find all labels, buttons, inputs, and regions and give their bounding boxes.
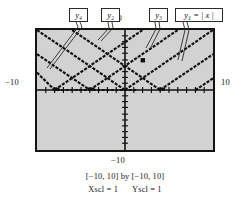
figure-caption: [−10, 10] by [−10, 10] Xscl = 1Yscl = 1 xyxy=(0,170,250,195)
vertex-marker-y4 xyxy=(53,88,60,91)
caption-scale-line: Xscl = 1Yscl = 1 xyxy=(0,183,250,195)
curve-y3-left xyxy=(72,30,160,90)
caption-window-range: [−10, 10] by [−10, 10] xyxy=(0,170,250,182)
caption-yscl: Yscl = 1 xyxy=(132,184,162,194)
vertex-marker-y3 xyxy=(158,88,165,91)
callout-y3-text: y₃ xyxy=(155,10,162,20)
curve-y4-right xyxy=(55,30,143,90)
callout-y1-expression: = | x | xyxy=(193,10,214,20)
graph-figure: −10 10 10 −10 y₄ y₂ y₃ y1 = | x | [−10, … xyxy=(0,0,250,210)
callout-label-y1: y1 = | x | xyxy=(175,8,223,22)
callout-label-y4: y₄ xyxy=(69,8,88,22)
x-axis-max-label: 10 xyxy=(221,77,230,87)
intersection-marker xyxy=(141,58,145,62)
callout-y2-text: y₂ xyxy=(107,10,114,20)
vertex-marker-y2 xyxy=(88,88,95,91)
curve-y1-right xyxy=(125,30,213,90)
curve-y2-right xyxy=(90,30,178,90)
caption-xscl: Xscl = 1 xyxy=(88,184,118,194)
callout-y1-subscript: 1 xyxy=(188,14,191,21)
y-axis-min-label: −10 xyxy=(111,155,125,165)
x-axis-min-label: −10 xyxy=(5,77,19,87)
curve-y1-left xyxy=(37,30,125,90)
callout-label-y3: y₃ xyxy=(149,8,168,22)
graph-plot-area xyxy=(37,30,213,150)
callout-label-y2: y₂ xyxy=(101,8,120,22)
calculator-screen xyxy=(35,28,215,152)
callout-y4-text: y₄ xyxy=(75,10,82,20)
